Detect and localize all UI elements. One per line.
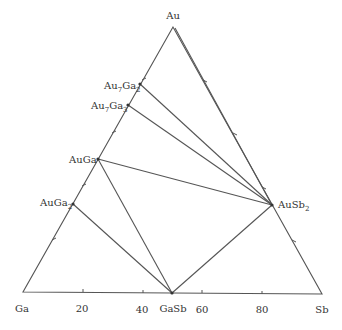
tick-label-60: 60 [196,304,209,315]
label-auga: AuGa [68,154,97,165]
tie-lines [73,28,272,293]
tick-label-80: 80 [256,304,269,315]
label-gasb: GaSb [159,303,186,314]
label-ausb2: AuSb2 [277,199,309,213]
point-ausb2 [270,203,273,206]
label-au7ga2: Au7Ga2 [103,80,141,94]
point-gasb [170,291,173,294]
ternary-diagram: Au Ga Sb 20 40 60 80 Au7Ga2 Au7Ga3 AuGa … [0,0,342,330]
tick-label-20: 20 [76,303,89,314]
tick-label-40: 40 [136,304,149,315]
triangle-outline [23,27,322,294]
label-au7ga3: Au7Ga3 [90,100,128,114]
tie-line-auga-ausb2 [98,159,272,205]
vertex-label-sb: Sb [315,304,328,315]
label-auga2: AuGa2 [39,197,72,211]
tie-line-au7ga2-ausb2 [140,84,272,205]
vertex-label-au: Au [165,10,180,21]
tie-line-auga-gasb [98,159,172,293]
tie-line-au7ga3-ausb2 [128,105,272,205]
point-auga [96,157,99,160]
tie-line-gasb-ausb2 [172,205,272,293]
vertex-label-ga: Ga [15,303,29,314]
tie-line-auga2-gasb [73,204,172,293]
tie-line-au-ausb2 [175,28,272,205]
